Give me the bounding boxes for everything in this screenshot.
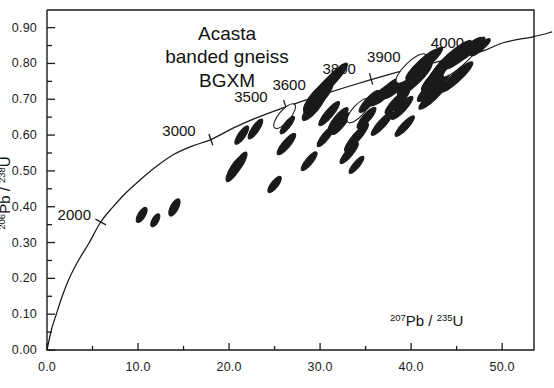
sample-annotation: Acasta banded gneiss BGXM xyxy=(132,22,322,92)
error-ellipse xyxy=(315,124,336,148)
x-tick-label: 20.0 xyxy=(216,360,241,374)
error-ellipse xyxy=(134,206,149,224)
age-label-3900: 3900 xyxy=(367,47,400,64)
y-axis-title-sup-206: 206 xyxy=(0,214,7,230)
y-axis-title-sup-238: 238 xyxy=(0,167,7,183)
y-axis-title-end: U xyxy=(0,156,13,167)
x-axis-title-end: U xyxy=(453,312,464,329)
annotation-line-1: Acasta xyxy=(132,22,322,45)
y-axis-title-mid: Pb / xyxy=(0,183,13,214)
concordia-diagram-figure: 0.010.020.030.040.050.0 0.000.100.200.30… xyxy=(0,0,554,388)
y-tick-label: 0.20 xyxy=(0,271,37,285)
annotation-line-2: banded gneiss xyxy=(132,45,322,68)
y-tick-label: 0.80 xyxy=(0,56,37,70)
x-axis-title-sup-207: 207 xyxy=(390,312,406,323)
y-tick-label: 0.70 xyxy=(0,92,37,106)
error-ellipse xyxy=(228,150,249,177)
x-tick-label: 40.0 xyxy=(399,360,424,374)
annotation-line-3: BGXM xyxy=(132,69,322,92)
x-tick-label: 30.0 xyxy=(308,360,333,374)
error-ellipse xyxy=(299,150,319,173)
y-tick-label: 0.10 xyxy=(0,307,37,321)
x-axis-title-mid: Pb / xyxy=(406,312,437,329)
age-label-4000: 4000 xyxy=(431,34,464,51)
x-tick-label: 0.0 xyxy=(38,360,56,374)
x-tick-label: 10.0 xyxy=(125,360,150,374)
x-axis-title-sup-235: 235 xyxy=(437,312,453,323)
error-ellipse xyxy=(166,197,182,218)
error-ellipse xyxy=(266,174,284,194)
error-ellipse xyxy=(275,131,299,157)
error-ellipse xyxy=(149,212,162,228)
y-tick-label: 0.00 xyxy=(0,343,37,357)
x-axis-title: 207Pb / 235U xyxy=(390,312,463,329)
y-axis-title: 206Pb / 238U xyxy=(0,118,13,268)
age-label-3800: 3800 xyxy=(323,60,356,77)
x-tick-label: 50.0 xyxy=(490,360,515,374)
y-tick-label: 0.90 xyxy=(0,21,37,35)
age-label-3000: 3000 xyxy=(162,121,195,138)
age-label-2000: 2000 xyxy=(58,205,91,222)
